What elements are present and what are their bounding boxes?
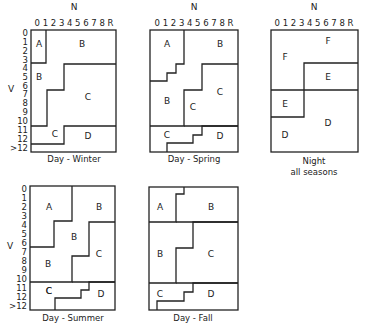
region-label: B	[157, 249, 163, 259]
svg-text:>12: >12	[10, 143, 28, 153]
caption-winter: Day - Winter	[47, 154, 101, 164]
region-label: C	[46, 286, 52, 296]
caption-spring: Day - Spring	[168, 154, 221, 164]
caption-night: Night	[303, 156, 327, 166]
region-label: D	[98, 289, 105, 299]
region-label: A	[46, 202, 53, 212]
region-label: C	[217, 87, 223, 97]
n-ticks-spring: 0 1 2 3 4 5 6 7 8 R	[155, 18, 234, 28]
region-label: F	[282, 52, 287, 62]
region-label: B	[164, 96, 170, 106]
region-label: C	[52, 129, 58, 139]
region-label: C	[85, 92, 91, 102]
region-label: D	[85, 131, 92, 141]
region-label: A	[36, 39, 43, 49]
n-axis-label-night: N	[311, 2, 318, 12]
region-label: B	[217, 39, 223, 49]
n-ticks-night: 0 1 2 3 4 5 6 7 8 R	[275, 18, 354, 28]
region-label: E	[325, 72, 331, 82]
region-label: C	[96, 249, 102, 259]
panel-winter-lines	[31, 30, 116, 152]
region-label: B	[79, 39, 85, 49]
caption-fall: Day - Fall	[173, 313, 212, 323]
region-label: B	[96, 202, 102, 212]
stability-class-diagram: N 0 1 2 3 4 5 6 7 8 R N 0 1 2 3 4 5 6 7 …	[0, 0, 367, 328]
svg-text:>12: >12	[9, 301, 27, 311]
n-axis-label-spring: N	[191, 2, 198, 12]
region-label: D	[208, 289, 215, 299]
n-axis-label-winter: N	[71, 2, 78, 12]
caption-night-sub: all seasons	[291, 167, 339, 177]
region-label: C	[157, 289, 163, 299]
region-label: C	[164, 130, 170, 140]
caption-summer: Day - Summer	[42, 313, 104, 323]
region-label: D	[325, 118, 332, 128]
region-label: C	[208, 249, 214, 259]
region-label: A	[157, 202, 164, 212]
region-label: C	[190, 102, 196, 112]
region-label: D	[282, 130, 289, 140]
region-label: E	[282, 99, 288, 109]
region-label: B	[45, 259, 51, 269]
region-label: D	[217, 131, 224, 141]
v-axis-label-summer: V	[7, 241, 14, 251]
v-axis-label-winter: V	[8, 84, 15, 94]
n-ticks-winter: 0 1 2 3 4 5 6 7 8 R	[35, 18, 114, 28]
region-label: A	[164, 39, 171, 49]
region-label: B	[36, 72, 42, 82]
region-label: B	[71, 232, 77, 242]
region-label: B	[208, 202, 214, 212]
region-label: F	[325, 36, 330, 46]
